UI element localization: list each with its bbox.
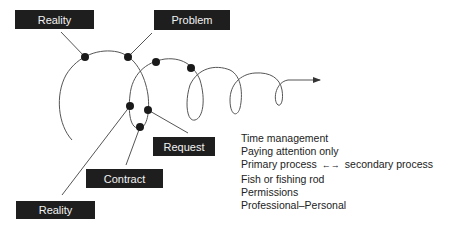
- note-item: Professional–Personal: [241, 199, 433, 212]
- connector-reality-top: [61, 32, 85, 57]
- node-dot: [144, 106, 152, 114]
- notes-list: Time management Paying attention only Pr…: [241, 132, 433, 212]
- label-problem: Problem: [154, 10, 230, 30]
- node-dot: [152, 58, 160, 66]
- node-dot: [126, 102, 134, 110]
- label-contract: Contract: [86, 169, 163, 188]
- note-item: Fish or fishing rod: [241, 173, 433, 186]
- note-item: Permissions: [241, 186, 433, 199]
- connector-contract: [126, 127, 140, 165]
- label-request: Request: [153, 137, 215, 156]
- node-dot: [124, 53, 132, 61]
- label-reality-top: Reality: [15, 10, 94, 29]
- node-dot: [136, 123, 144, 131]
- double-arrow-icon: ←→: [322, 159, 340, 172]
- label-reality-bottom: Reality: [16, 201, 95, 219]
- node-dot: [81, 53, 89, 61]
- connector-problem: [128, 33, 152, 57]
- node-dot: [187, 64, 195, 72]
- note-secondary: secondary process: [345, 158, 433, 170]
- note-primary: Primary process: [241, 158, 317, 170]
- note-item: Time management: [241, 132, 433, 145]
- note-item: Paying attention only: [241, 145, 433, 158]
- note-item: Primary process←→secondary process: [241, 158, 433, 172]
- connector-request: [148, 110, 188, 133]
